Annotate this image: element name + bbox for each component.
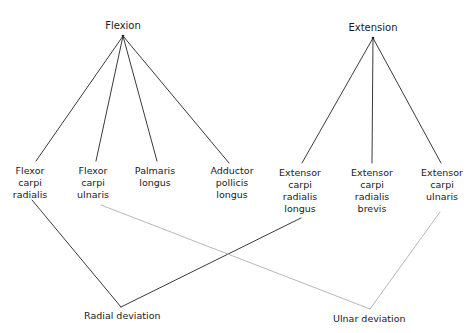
edge-extension-to-ecu <box>373 38 441 163</box>
muscle-extensor-carpi-ulnaris: Extensor carpi ulnaris <box>421 167 463 203</box>
muscle-extensor-carpi-radialis-longus: Extensor carpi radialis longus <box>279 167 321 215</box>
edge-extension-to-ecrb <box>372 38 373 163</box>
edge-flexion-to-pl <box>123 36 157 161</box>
muscle-flexor-carpi-radialis: Flexor carpi radialis <box>13 165 47 201</box>
edge-flexion-to-apl <box>123 36 229 163</box>
edge-ecu-to-ulnar_deviation <box>370 212 440 309</box>
muscle-flexor-carpi-ulnaris: Flexor carpi ulnaris <box>77 165 109 201</box>
flexion-apex-dot <box>122 35 125 38</box>
ulnar-deviation-label: Ulnar deviation <box>333 313 406 325</box>
edge-fcr-to-radial_deviation <box>32 200 121 307</box>
extension-label: Extension <box>348 22 397 34</box>
muscle-adductor-pollicis-longus: Adductor pollicis longus <box>210 165 253 201</box>
diagram-canvas: Flexion Extension Flexor carpi radialis … <box>0 0 471 333</box>
radial-deviation-label: Radial deviation <box>84 310 161 322</box>
muscle-palmaris-longus: Palmaris longus <box>135 165 175 189</box>
edge-fcu-to-ulnar_deviation <box>101 205 370 309</box>
extension-apex-dot <box>372 37 375 40</box>
muscle-extensor-carpi-radialis-brevis: Extensor carpi radialis brevis <box>351 167 393 215</box>
flexion-label: Flexion <box>105 20 141 32</box>
edge-ecrl-to-radial_deviation <box>121 218 301 307</box>
edge-extension-to-ecrl <box>302 38 373 163</box>
